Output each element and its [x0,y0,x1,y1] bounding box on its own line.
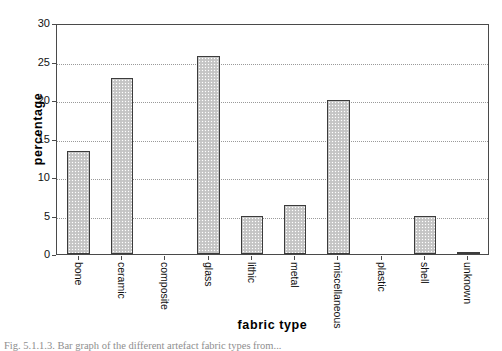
x-axis-tick-mark [251,256,252,260]
x-axis-tick-labels: boneceramiccompositeglasslithicmetalmisc… [56,256,489,318]
x-axis-tick: miscellaneous [316,256,359,318]
x-axis-tick: unknown [446,256,489,318]
y-axis-tick-marks [0,24,60,255]
x-axis-tick-label-shell: shell [419,262,430,284]
x-axis-tick-mark [208,256,209,260]
x-axis-tick-label-glass: glass [202,262,213,287]
x-axis-tick-mark [467,256,468,260]
bar-metal [284,205,307,254]
bars-layer [57,25,488,254]
bar-ceramic [111,78,134,254]
x-axis-tick: metal [273,256,316,318]
x-axis-tick: composite [143,256,186,318]
x-axis-title: fabric type [56,318,489,332]
x-axis-tick-mark [294,256,295,260]
x-axis-tick: bone [56,256,99,318]
plot-area [56,24,489,255]
x-axis-tick: shell [402,256,445,318]
x-axis-tick-mark [337,256,338,260]
x-axis-tick-mark [164,256,165,260]
bar-chart-figure: percentage 051015202530 boneceramiccompo… [0,0,502,351]
x-axis-tick-label-metal: metal [289,262,300,288]
x-axis-tick-label-unknown: unknown [462,262,473,304]
x-axis-tick: ceramic [99,256,142,318]
figure-caption: Fig. 5.1.1.3. Bar graph of the different… [4,341,334,351]
x-axis-tick-label-lithic: lithic [245,262,256,283]
bar-unknown [457,252,480,254]
x-axis-tick-mark [78,256,79,260]
bar-miscellaneous [327,100,350,254]
x-axis-tick-label-composite: composite [159,262,170,310]
x-axis-tick-mark [424,256,425,260]
bar-bone [67,151,90,254]
x-axis-tick-label-bone: bone [72,262,83,285]
bar-lithic [241,216,264,255]
bar-shell [414,216,437,255]
x-axis-tick: lithic [229,256,272,318]
x-axis-tick-mark [381,256,382,260]
x-axis-tick-label-plastic: plastic [375,262,386,292]
x-axis-tick: glass [186,256,229,318]
x-axis-tick: plastic [359,256,402,318]
x-axis-tick-label-ceramic: ceramic [115,262,126,299]
bar-glass [197,56,220,254]
x-axis-tick-mark [121,256,122,260]
